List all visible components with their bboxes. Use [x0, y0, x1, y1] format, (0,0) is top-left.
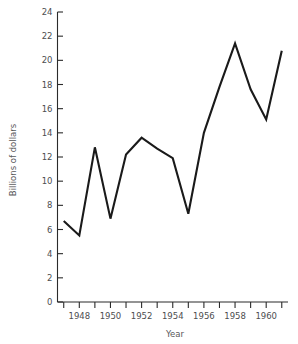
x-axis: 1948195019521954195619581960	[58, 302, 289, 321]
y-tick-label: 24	[42, 7, 53, 17]
y-tick-label: 8	[47, 200, 52, 210]
y-tick-label: 12	[42, 152, 53, 162]
y-tick-label: 4	[47, 249, 52, 259]
x-tick-label: 1948	[68, 311, 90, 321]
y-tick-label: 22	[42, 31, 53, 41]
y-tick-label: 0	[47, 297, 52, 307]
x-tick-label: 1958	[224, 311, 246, 321]
x-tick-label: 1952	[131, 311, 153, 321]
x-tick-label: 1960	[255, 311, 277, 321]
series-line	[64, 43, 282, 235]
y-tick-label: 10	[42, 176, 53, 186]
y-axis-title: Billions of dollars	[8, 123, 18, 196]
x-tick-label: 1954	[162, 311, 184, 321]
data-series	[64, 43, 282, 235]
y-tick-label: 6	[47, 225, 52, 235]
x-tick-label: 1950	[100, 311, 122, 321]
x-tick-label: 1956	[193, 311, 215, 321]
y-tick-label: 16	[42, 104, 53, 114]
chart-canvas: 024681012141618202224 194819501952195419…	[0, 0, 298, 344]
line-chart: 024681012141618202224 194819501952195419…	[0, 0, 298, 344]
x-axis-title: Year	[165, 329, 185, 339]
y-tick-label: 20	[42, 55, 53, 65]
y-tick-label: 2	[47, 273, 52, 283]
y-tick-label: 14	[42, 128, 53, 138]
y-tick-label: 18	[42, 80, 53, 90]
y-axis: 024681012141618202224	[42, 7, 63, 307]
